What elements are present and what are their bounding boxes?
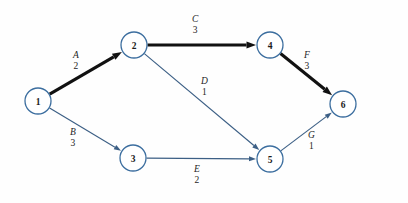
edge-line-a — [50, 57, 114, 94]
edge-label-d: D1 — [201, 76, 208, 98]
edge-label-a: A2 — [73, 50, 79, 72]
node-label-5: 5 — [268, 155, 273, 165]
node-label-2: 2 — [132, 41, 137, 51]
activity-name-e: E — [194, 164, 200, 175]
node-2[interactable]: 2 — [121, 32, 147, 58]
node-label-4: 4 — [268, 41, 273, 51]
node-4[interactable]: 4 — [257, 32, 283, 58]
edge-a — [50, 52, 122, 94]
edge-label-g: G1 — [308, 130, 315, 152]
node-label-6: 6 — [341, 100, 346, 110]
activity-name-f: F — [304, 50, 310, 61]
edge-line-g — [281, 117, 326, 151]
edge-b — [50, 108, 121, 151]
activity-duration-d: 1 — [201, 87, 208, 98]
arrowhead-icon-g — [325, 112, 332, 118]
network-graph: 123456 — [0, 0, 408, 203]
node-1[interactable]: 1 — [25, 88, 51, 114]
edge-g — [281, 112, 332, 150]
arrowhead-icon-c — [247, 42, 257, 49]
activity-name-a: A — [73, 50, 79, 61]
network-diagram-canvas: 123456 A2B3C3D1E2F3G1 — [0, 0, 408, 203]
edges-layer — [50, 42, 333, 162]
activity-name-d: D — [201, 76, 208, 87]
activity-duration-a: 2 — [73, 61, 79, 72]
edge-label-e: E2 — [194, 164, 200, 186]
edge-label-b: B3 — [70, 127, 76, 149]
edge-d — [144, 54, 259, 150]
node-3[interactable]: 3 — [120, 145, 146, 171]
arrowhead-icon-e — [249, 156, 256, 161]
edge-line-d — [144, 54, 254, 146]
edge-line-b — [50, 108, 115, 147]
node-5[interactable]: 5 — [257, 146, 283, 172]
edge-line-f — [280, 53, 324, 89]
node-label-1: 1 — [36, 97, 41, 107]
activity-name-b: B — [70, 127, 76, 138]
activity-duration-g: 1 — [308, 141, 315, 152]
node-6[interactable]: 6 — [330, 91, 356, 117]
node-label-3: 3 — [131, 154, 136, 164]
edge-line-e — [146, 158, 249, 159]
arrowhead-icon-b — [114, 145, 121, 151]
edge-label-c: C3 — [192, 14, 198, 36]
activity-duration-e: 2 — [194, 175, 200, 186]
activity-duration-b: 3 — [70, 138, 76, 149]
edge-label-f: F3 — [304, 50, 310, 72]
activity-duration-f: 3 — [304, 61, 310, 72]
edge-c — [148, 42, 257, 49]
edge-e — [146, 156, 256, 161]
activity-duration-c: 3 — [192, 25, 198, 36]
activity-name-c: C — [192, 14, 198, 25]
activity-name-g: G — [308, 130, 315, 141]
